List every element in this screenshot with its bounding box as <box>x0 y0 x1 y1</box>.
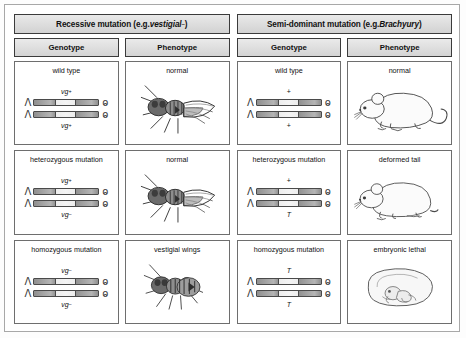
column-header-phenotype: Phenotype <box>347 38 452 57</box>
chromosome-tip-right: ⱺ <box>98 109 108 120</box>
allele-superscript: + <box>69 178 72 183</box>
allele-superscript: + <box>69 123 72 128</box>
chromosome-pair: vg+ɅⱺɅⱺvg+ <box>15 75 118 144</box>
fly-vestigial-wings-icon <box>126 254 229 323</box>
genotype-cell: wild type+ɅⱺɅⱺ+ <box>237 61 342 145</box>
chromosome-tip-right: ⱺ <box>321 97 331 108</box>
panel-recessive-mutation: Recessive mutation (e.g. vestigial–)Geno… <box>14 14 230 324</box>
chromosome-tip-right: ⱺ <box>98 276 108 287</box>
phenotype-cell: embryonic lethal <box>347 240 452 324</box>
genotype-label: heterozygous mutation <box>30 156 103 164</box>
chromosome-tip-right: ⱺ <box>321 288 331 299</box>
chromosome-top: Ʌⱺ <box>25 186 107 197</box>
genotype-phenotype-row: heterozygous mutationvg+ɅⱺɅⱺvg–normal <box>14 150 230 234</box>
phenotype-label: normal <box>166 156 188 164</box>
allele-symbol: vg <box>61 301 68 308</box>
genotype-cell: homozygous mutationTɅⱺɅⱺT <box>237 240 342 324</box>
allele-symbol: + <box>287 177 291 184</box>
allele-superscript: + <box>69 89 72 94</box>
chromosome-top: Ʌⱺ <box>248 276 330 287</box>
genotype-phenotype-row: heterozygous mutation+ɅⱺɅⱺTdeformed tail <box>237 150 453 234</box>
panel-title-gene: vestigial <box>150 20 182 29</box>
column-headers: GenotypePhenotype <box>237 38 453 57</box>
genotype-label: homozygous mutation <box>254 246 324 254</box>
allele-label-bottom: vg– <box>61 210 71 219</box>
genotype-label: wild type <box>52 67 80 75</box>
genotype-phenotype-row: homozygous mutationTɅⱺɅⱺTembryonic letha… <box>237 240 453 324</box>
panel-semi-dominant-mutation: Semi-dominant mutation (e.g. Brachyury)G… <box>237 14 453 324</box>
chromosome-tip-right: ⱺ <box>98 97 108 108</box>
mouse-long-tail-icon <box>348 75 451 144</box>
column-header-genotype: Genotype <box>14 38 119 57</box>
mouse-embryo-icon <box>348 254 451 323</box>
allele-symbol: vg <box>61 267 68 274</box>
phenotype-cell: vestigial wings <box>125 240 230 324</box>
phenotype-cell: normal <box>125 61 230 145</box>
allele-symbol: vg <box>61 122 68 129</box>
chromosome-pair: TɅⱺɅⱺT <box>238 254 341 323</box>
allele-symbol: vg <box>61 88 68 95</box>
panel-title-prefix: Semi-dominant mutation (e.g. <box>267 20 379 29</box>
chromosome-tip-right: ⱺ <box>98 198 108 209</box>
genotype-phenotype-row: wild type+ɅⱺɅⱺ+normal <box>237 61 453 145</box>
panel-title: Semi-dominant mutation (e.g. Brachyury) <box>237 14 453 34</box>
chromosome-bottom: Ʌⱺ <box>248 109 330 120</box>
allele-label-top: + <box>287 176 291 185</box>
chromosome-tip-right: ⱺ <box>321 198 331 209</box>
allele-superscript: – <box>69 302 72 307</box>
genotype-cell: homozygous mutationvg–ɅⱺɅⱺvg– <box>14 240 119 324</box>
phenotype-cell: deformed tail <box>347 150 452 234</box>
phenotype-cell: normal <box>347 61 452 145</box>
allele-symbol: T <box>287 267 291 274</box>
chromosome-bar <box>256 99 322 106</box>
genotype-label: heterozygous mutation <box>253 156 326 164</box>
chromosome-top: Ʌⱺ <box>248 97 330 108</box>
mouse-short-tail-icon <box>348 164 451 233</box>
allele-symbol: + <box>287 88 291 95</box>
rows-container: wild type+ɅⱺɅⱺ+normal heterozygous mutat… <box>237 61 453 324</box>
chromosome-tip-right: ⱺ <box>98 288 108 299</box>
phenotype-label: normal <box>389 67 411 75</box>
chromosome-pair: +ɅⱺɅⱺT <box>238 164 341 233</box>
allele-symbol: vg <box>61 177 68 184</box>
chromosome-tip-right: ⱺ <box>321 276 331 287</box>
allele-symbol: vg <box>61 211 68 218</box>
panel-title-suffix: ) <box>185 20 188 29</box>
chromosome-bottom: Ʌⱺ <box>25 109 107 120</box>
panel-title: Recessive mutation (e.g. vestigial–) <box>14 14 230 34</box>
chromosome-bar <box>256 111 322 118</box>
panel-title-gene: Brachyury <box>379 20 419 29</box>
chromosome-bar <box>33 188 99 195</box>
chromosome-bar <box>256 290 322 297</box>
column-header-phenotype: Phenotype <box>125 38 230 57</box>
allele-label-bottom: + <box>287 121 291 130</box>
allele-superscript: – <box>69 268 72 273</box>
chromosome-bottom: Ʌⱺ <box>248 198 330 209</box>
allele-superscript: – <box>69 212 72 217</box>
chromosome-tip-right: ⱺ <box>321 186 331 197</box>
chromosome-tip-right: ⱺ <box>321 109 331 120</box>
panel-title-prefix: Recessive mutation (e.g. <box>56 20 150 29</box>
chromosome-bottom: Ʌⱺ <box>248 288 330 299</box>
phenotype-label: embryonic lethal <box>373 246 425 254</box>
allele-label-top: + <box>287 87 291 96</box>
diagram-frame: Recessive mutation (e.g. vestigial–)Geno… <box>4 4 460 332</box>
phenotype-cell: normal <box>125 150 230 234</box>
genotype-phenotype-row: wild typevg+ɅⱺɅⱺvg+normal <box>14 61 230 145</box>
chromosome-bar <box>256 188 322 195</box>
genotype-phenotype-row: homozygous mutationvg–ɅⱺɅⱺvg–vestigial w… <box>14 240 230 324</box>
genotype-cell: heterozygous mutation+ɅⱺɅⱺT <box>237 150 342 234</box>
chromosome-bottom: Ʌⱺ <box>25 288 107 299</box>
panel-title-suffix: ) <box>419 20 422 29</box>
allele-symbol: + <box>287 122 291 129</box>
chromosome-pair: +ɅⱺɅⱺ+ <box>238 75 341 144</box>
allele-label-bottom: vg+ <box>61 121 72 130</box>
chromosome-top: Ʌⱺ <box>248 186 330 197</box>
allele-label-top: vg– <box>61 266 71 275</box>
chromosome-tip-right: ⱺ <box>98 186 108 197</box>
genotype-cell: wild typevg+ɅⱺɅⱺvg+ <box>14 61 119 145</box>
genotype-label: wild type <box>275 67 303 75</box>
column-headers: GenotypePhenotype <box>14 38 230 57</box>
allele-symbol: T <box>287 211 291 218</box>
chromosome-top: Ʌⱺ <box>25 276 107 287</box>
